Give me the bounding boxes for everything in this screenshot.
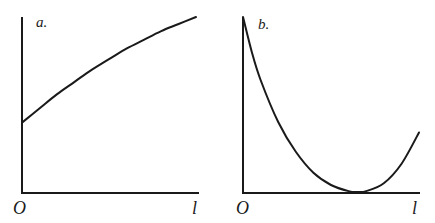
panel-a-x-tick-origin: O <box>13 199 26 217</box>
panel-a-curve <box>22 17 196 123</box>
chart-canvas <box>0 0 435 223</box>
panel-b-axes <box>242 17 420 193</box>
panel-a-x-tick-end: l <box>192 199 197 217</box>
figure: a. O l b. O l <box>0 0 435 223</box>
panel-a-axes <box>21 17 199 193</box>
panel-b-label: b. <box>258 17 269 32</box>
panel-a-label: a. <box>36 15 47 30</box>
panel-b-curve <box>243 17 419 192</box>
panel-b-x-tick-end: l <box>412 199 417 217</box>
panel-b-x-tick-origin: O <box>236 199 249 217</box>
